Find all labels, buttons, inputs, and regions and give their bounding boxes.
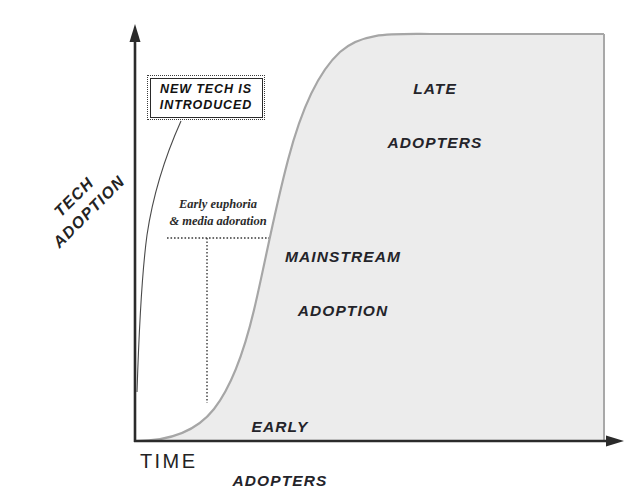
new-tech-callout-inner: NEW TECH IS INTRODUCED <box>150 78 263 118</box>
late-adopters-line1: LATE <box>365 80 505 98</box>
new-tech-callout-box: NEW TECH IS INTRODUCED <box>147 75 265 120</box>
early-adopters-line1: EARLY <box>205 418 355 436</box>
late-adopters-line2: ADOPTERS <box>365 134 505 152</box>
callout-leader-line <box>137 121 181 392</box>
early-euphoria-note: Early euphoria & media adoration <box>160 196 276 230</box>
new-tech-callout-line2: INTRODUCED <box>160 98 252 114</box>
early-euphoria-line2: & media adoration <box>160 213 276 230</box>
mainstream-line1: MAINSTREAM <box>263 248 423 266</box>
early-euphoria-line1: Early euphoria <box>160 196 276 213</box>
y-axis-arrowhead <box>130 24 141 42</box>
diagram-canvas: NEW TECH IS INTRODUCED Early euphoria & … <box>0 0 643 486</box>
x-axis-title: TIME <box>140 450 197 473</box>
early-adopters-label: EARLY ADOPTERS <box>205 382 355 486</box>
mainstream-line2: ADOPTION <box>263 302 423 320</box>
new-tech-callout-line1: NEW TECH IS <box>160 82 252 98</box>
mainstream-adoption-label: MAINSTREAM ADOPTION <box>263 212 423 356</box>
early-adopters-line2: ADOPTERS <box>205 472 355 486</box>
late-adopters-label: LATE ADOPTERS <box>365 44 505 188</box>
x-axis-arrowhead <box>606 436 624 447</box>
